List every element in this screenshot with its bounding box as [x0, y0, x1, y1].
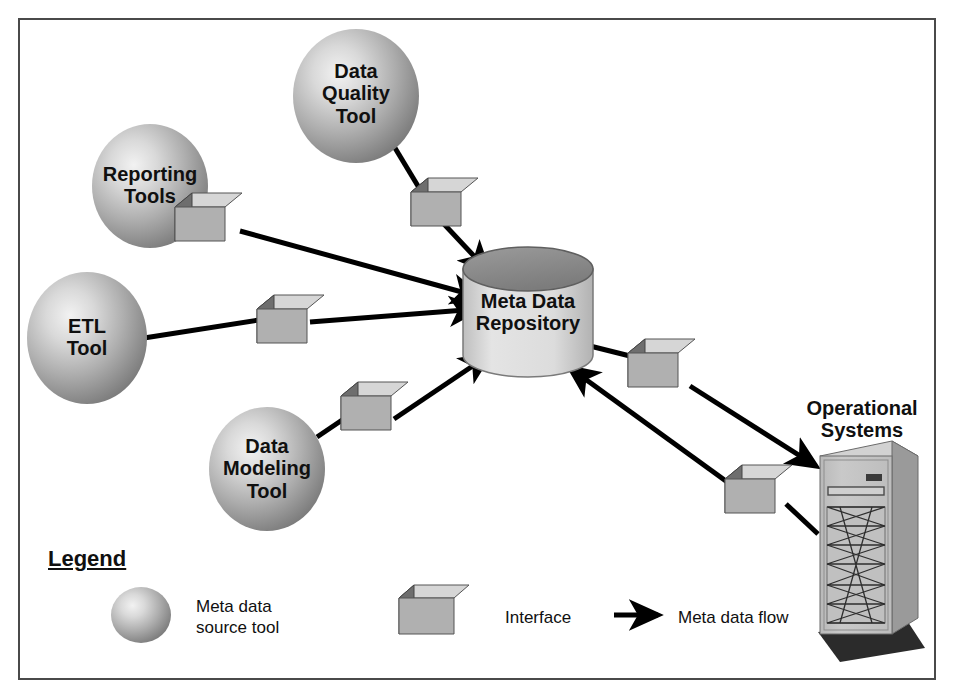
tower-indicator-badge — [866, 474, 882, 481]
interface-repo-to-ops[interactable] — [628, 339, 695, 387]
cylinder-top — [463, 247, 593, 291]
flow-etl-segment-a — [144, 318, 272, 338]
interface-data-modeling[interactable] — [341, 382, 408, 430]
flow-etl-to-repo — [310, 309, 478, 322]
diagram-graphics — [0, 0, 954, 699]
node-data-modeling-tool[interactable] — [209, 407, 325, 531]
cube-front — [725, 479, 775, 513]
flow-operational-to-repo-segment-a — [786, 504, 818, 534]
node-meta-data-repository[interactable] — [463, 247, 593, 377]
flow-reporting-to-repo — [240, 231, 480, 297]
cube-front — [628, 353, 678, 387]
node-operational-systems[interactable] — [818, 441, 925, 662]
tower-side-face — [892, 441, 918, 634]
cube-front — [341, 396, 391, 430]
node-data-quality-tool[interactable] — [293, 29, 419, 163]
interface-ops-to-repo[interactable] — [725, 465, 792, 513]
sphere-shape — [27, 272, 147, 404]
interface-reporting[interactable] — [175, 193, 242, 241]
cube-front — [175, 207, 225, 241]
node-etl-tool[interactable] — [27, 272, 147, 404]
interface-etl[interactable] — [257, 295, 324, 343]
sphere-shape — [209, 407, 325, 531]
cube-front — [257, 309, 307, 343]
tower-drive-slot — [828, 487, 884, 495]
flow-repo-to-operational — [690, 386, 816, 466]
interface-data-quality[interactable] — [411, 178, 478, 226]
legend-label-cube: Interface — [505, 607, 645, 628]
sphere-shape — [293, 29, 419, 163]
diagram-canvas: Data Quality Tool Reporting Tools ETL To… — [0, 0, 954, 699]
legend-label-sphere: Meta data source tool — [196, 596, 356, 639]
legend-label-arrow: Meta data flow — [678, 607, 878, 628]
cube-front — [411, 192, 461, 226]
legend-sphere-symbol — [111, 587, 171, 643]
legend-cube-symbol — [399, 585, 469, 634]
legend-title: Legend — [48, 546, 126, 572]
